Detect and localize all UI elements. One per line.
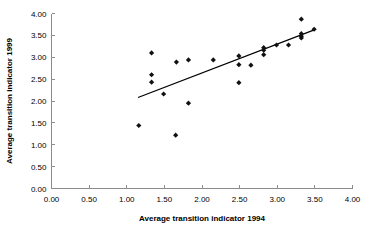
y-tick-label: 3.00	[31, 53, 47, 62]
data-point	[149, 80, 154, 85]
data-points	[136, 17, 317, 138]
data-point	[149, 72, 154, 77]
x-axis-ticks: 0.000.501.001.502.002.503.003.504.00	[44, 185, 361, 204]
y-tick-label: 0.00	[31, 185, 47, 194]
x-tick-label: 4.00	[345, 195, 361, 204]
trend-line-group	[138, 30, 315, 98]
scatter-chart: 0.000.501.001.502.002.503.003.504.00 0.0…	[0, 0, 384, 231]
data-point	[136, 123, 141, 128]
x-tick-label: 0.00	[44, 195, 60, 204]
data-point	[261, 52, 266, 57]
x-tick-label: 0.50	[81, 195, 97, 204]
y-tick-label: 2.00	[31, 97, 47, 106]
y-tick-label: 2.50	[31, 75, 47, 84]
y-tick-label: 1.50	[31, 119, 47, 128]
data-point	[236, 80, 241, 85]
data-point	[174, 59, 179, 64]
y-axis-title: Average transition indicator 1999	[5, 37, 14, 164]
x-tick-label: 3.50	[307, 195, 323, 204]
y-tick-label: 1.00	[31, 141, 47, 150]
x-axis-title: Average transition indicator 1994	[139, 214, 266, 223]
y-tick-label: 0.50	[31, 163, 47, 172]
data-point	[299, 17, 304, 22]
data-point	[286, 42, 291, 47]
data-point	[161, 91, 166, 96]
chart-canvas: 0.000.501.001.502.002.503.003.504.00 0.0…	[0, 0, 384, 231]
y-tick-label: 4.00	[31, 10, 47, 19]
data-point	[236, 62, 241, 67]
x-tick-label: 3.00	[269, 195, 285, 204]
data-point	[211, 57, 216, 62]
data-point	[186, 57, 191, 62]
data-point	[248, 63, 253, 68]
x-tick-label: 1.00	[119, 195, 135, 204]
x-tick-label: 2.00	[194, 195, 210, 204]
x-tick-label: 1.50	[157, 195, 173, 204]
axes	[52, 14, 353, 189]
trend-line	[138, 30, 315, 98]
data-point	[186, 101, 191, 106]
y-tick-label: 3.50	[31, 31, 47, 40]
x-tick-label: 2.50	[232, 195, 248, 204]
data-point	[173, 133, 178, 138]
data-point	[149, 50, 154, 55]
